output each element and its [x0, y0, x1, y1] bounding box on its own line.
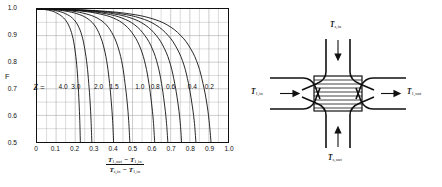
series-label-z-2.0: 2.0: [94, 84, 103, 91]
figure-root: F 0.50.60.70.80.91.0 00.10.20.30.40.50.6…: [0, 0, 442, 187]
curve-z-1.5: [37, 9, 130, 142]
label-ts-out: Ts,out: [328, 154, 342, 162]
x-tick-label: 1.0: [209, 146, 249, 153]
plot-area: [36, 8, 229, 143]
y-axis-label: F: [5, 72, 10, 81]
series-label-z-0.4: 0.4: [188, 84, 197, 91]
x-axis-label: T1,out − T1,in Ts,in − T1,in: [106, 156, 226, 174]
label-t1-out-sub: 1,out: [411, 91, 421, 96]
label-t1-in-sub: 1,in: [255, 91, 263, 96]
curve-lines: [37, 9, 228, 142]
label-t1-in: T1,in: [251, 88, 263, 96]
heat-exchanger-schematic: Ts,in Ts,out T1,in T1,out: [250, 0, 442, 187]
tube-bank-hatching: [314, 80, 362, 108]
y-tick-label: 0.5: [0, 140, 17, 147]
series-label-z-0.2: 0.2: [205, 84, 214, 91]
flow-arrows: [280, 40, 400, 147]
series-label-z-1.5: 1.5: [110, 84, 119, 91]
x-axis-label-numerator: T1,out − T1,in: [106, 156, 144, 165]
y-tick-label: 0.6: [0, 113, 17, 120]
y-tick-label: 1.0: [0, 5, 17, 12]
x-axis-label-denominator: Ts,in − T1,in: [106, 165, 144, 174]
series-label-z-1.0: 1.0: [135, 84, 144, 91]
curve-z-1.0: [37, 9, 155, 142]
label-t1-out: T1,out: [407, 88, 421, 96]
series-label-z-0.6: 0.6: [166, 84, 175, 91]
label-ts-out-sub: s,out: [332, 157, 342, 162]
series-label-z-4.0: 4.0: [59, 84, 68, 91]
curve-z-3.0: [37, 9, 92, 142]
chart-panel: F 0.50.60.70.80.91.0 00.10.20.30.40.50.6…: [0, 0, 250, 187]
y-tick-label: 0.9: [0, 32, 17, 39]
series-label-z-3.0: 3.0: [71, 84, 80, 91]
y-tick-label: 0.8: [0, 59, 17, 66]
curve-z-2.0: [37, 9, 114, 142]
curve-z-0.4: [37, 9, 196, 142]
curve-z-4.0: [37, 9, 80, 142]
y-tick-label: 0.7: [0, 86, 17, 93]
curve-z-0.8: [37, 9, 168, 142]
series-label-z-0.8: 0.8: [151, 84, 160, 91]
series-parameter-label: Z =: [34, 84, 45, 91]
label-ts-in: Ts,in: [330, 21, 342, 29]
label-ts-in-sub: s,in: [334, 24, 341, 29]
